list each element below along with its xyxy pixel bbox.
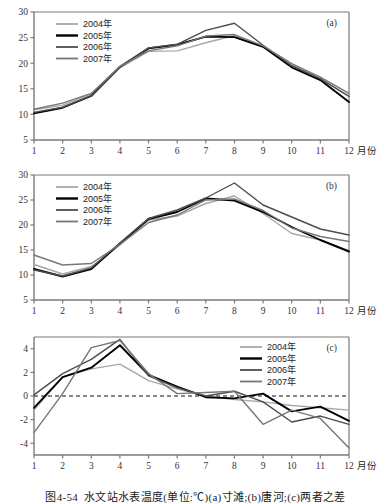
x-axis-label: 月份 xyxy=(357,145,377,156)
plot-area-a: 51015202530123456789101112月份2004年2005年20… xyxy=(0,0,391,168)
caption-text: 水文站水表温度(单位:℃)(a)寸滩;(b)唐河;(c)两者之差 xyxy=(84,491,345,503)
chart-panel-c: -4-2024123456789101112月份2004年2005年2006年2… xyxy=(0,325,391,485)
y-tick-label: 4 xyxy=(23,344,28,354)
panel-label: (a) xyxy=(326,18,337,29)
legend-label: 2004年 xyxy=(83,181,112,192)
y-tick-label: 5 xyxy=(23,135,28,145)
x-tick-label: 12 xyxy=(344,461,354,471)
x-tick-label: 7 xyxy=(203,146,208,156)
x-tick-label: 11 xyxy=(316,306,325,316)
panel-label: (b) xyxy=(326,181,337,192)
y-tick-label: 20 xyxy=(19,220,29,230)
series-line-2007 xyxy=(34,341,349,448)
y-tick-label: 10 xyxy=(19,270,29,280)
x-tick-label: 2 xyxy=(60,146,65,156)
x-tick-label: 12 xyxy=(344,306,354,316)
y-tick-label: 30 xyxy=(19,7,29,17)
y-tick-label: 15 xyxy=(19,245,29,255)
figure-container: 51015202530123456789101112月份2004年2005年20… xyxy=(0,0,391,504)
x-tick-label: 4 xyxy=(118,146,123,156)
legend: 2004年2005年2006年2007年 xyxy=(56,18,112,64)
x-tick-label: 3 xyxy=(89,306,94,316)
x-tick-label: 1 xyxy=(32,146,37,156)
x-tick-label: 8 xyxy=(232,146,237,156)
x-tick-label: 10 xyxy=(287,461,297,471)
y-tick-label: -4 xyxy=(20,439,28,449)
y-tick-label: 20 xyxy=(19,59,29,69)
x-tick-label: 9 xyxy=(261,146,266,156)
x-tick-label: 8 xyxy=(232,461,237,471)
figure-caption: 图4-54水文站水表温度(单位:℃)(a)寸滩;(b)唐河;(c)两者之差 xyxy=(0,488,391,504)
x-tick-label: 5 xyxy=(146,306,151,316)
x-tick-label: 6 xyxy=(175,306,180,316)
series-line-2005 xyxy=(34,37,349,114)
caption-number: 图4-54 xyxy=(45,491,78,503)
x-tick-label: 9 xyxy=(261,461,266,471)
x-axis-ticks: 123456789101112月份 xyxy=(32,140,377,156)
x-tick-label: 6 xyxy=(175,146,180,156)
legend-label: 2006年 xyxy=(83,204,112,215)
x-tick-label: 7 xyxy=(203,461,208,471)
x-axis-label: 月份 xyxy=(357,460,377,471)
series-line-2006 xyxy=(34,339,349,424)
y-tick-label: 30 xyxy=(19,170,29,180)
x-tick-label: 12 xyxy=(344,146,354,156)
chart-panel-a: 51015202530123456789101112月份2004年2005年20… xyxy=(0,0,391,168)
legend-label: 2004年 xyxy=(83,18,112,29)
chart-svg-b: 51015202530123456789101112月份2004年2005年20… xyxy=(0,165,391,328)
y-axis-ticks: -4-2024 xyxy=(20,344,34,448)
legend: 2004年2005年2006年2007年 xyxy=(56,181,112,227)
series-group xyxy=(34,183,349,277)
x-tick-label: 1 xyxy=(32,461,37,471)
x-tick-label: 4 xyxy=(118,306,123,316)
legend-label: 2006年 xyxy=(83,41,112,52)
y-axis-ticks: 51015202530 xyxy=(19,170,35,305)
x-tick-label: 6 xyxy=(175,461,180,471)
chart-svg-c: -4-2024123456789101112月份2004年2005年2006年2… xyxy=(0,325,391,485)
legend-label: 2005年 xyxy=(83,193,112,204)
series-line-2005 xyxy=(34,345,349,421)
x-tick-label: 11 xyxy=(316,461,325,471)
legend-label: 2006年 xyxy=(267,364,296,375)
legend-label: 2005年 xyxy=(267,353,296,364)
legend-label: 2005年 xyxy=(83,30,112,41)
chart-svg-a: 51015202530123456789101112月份2004年2005年20… xyxy=(0,0,391,168)
x-tick-label: 7 xyxy=(203,306,208,316)
axes xyxy=(34,175,349,300)
panel-label: (c) xyxy=(326,343,337,354)
x-tick-label: 1 xyxy=(32,306,37,316)
x-tick-label: 11 xyxy=(316,146,325,156)
series-line-2006 xyxy=(34,183,349,276)
y-tick-label: 10 xyxy=(19,110,29,120)
chart-panel-b: 51015202530123456789101112月份2004年2005年20… xyxy=(0,165,391,328)
series-group xyxy=(34,23,349,113)
plot-area-b: 51015202530123456789101112月份2004年2005年20… xyxy=(0,165,391,328)
plot-area-c: -4-2024123456789101112月份2004年2005年2006年2… xyxy=(0,325,391,485)
legend-label: 2007年 xyxy=(83,216,112,227)
x-tick-label: 10 xyxy=(287,306,297,316)
x-tick-label: 5 xyxy=(146,461,151,471)
x-tick-label: 4 xyxy=(118,461,123,471)
x-axis-ticks: 123456789101112月份 xyxy=(32,455,377,471)
y-tick-label: 15 xyxy=(19,84,29,94)
y-tick-label: 5 xyxy=(23,295,28,305)
legend-label: 2004年 xyxy=(267,341,296,352)
y-tick-label: 2 xyxy=(23,368,28,378)
axes xyxy=(34,12,349,140)
y-tick-label: 0 xyxy=(23,391,28,401)
x-tick-label: 9 xyxy=(261,306,266,316)
y-tick-label: -2 xyxy=(20,415,28,425)
y-tick-label: 25 xyxy=(19,195,29,205)
x-tick-label: 2 xyxy=(60,306,65,316)
legend: 2004年2005年2006年2007年 xyxy=(240,341,296,387)
x-axis-ticks: 123456789101112月份 xyxy=(32,300,377,316)
series-group xyxy=(34,339,349,448)
x-tick-label: 5 xyxy=(146,146,151,156)
x-tick-label: 3 xyxy=(89,461,94,471)
x-tick-label: 8 xyxy=(232,306,237,316)
y-tick-label: 25 xyxy=(19,33,29,43)
legend-label: 2007年 xyxy=(83,53,112,64)
y-axis-ticks: 51015202530 xyxy=(19,7,35,145)
legend-label: 2007年 xyxy=(267,376,296,387)
x-axis-label: 月份 xyxy=(357,305,377,316)
